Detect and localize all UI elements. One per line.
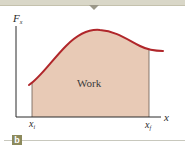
- y-axis-label: Fx: [13, 13, 22, 25]
- lower-bound-label: xi: [29, 119, 35, 130]
- upper-bound-label: xf: [145, 120, 151, 131]
- bottom-divider: [4, 140, 185, 141]
- panel-label-badge: b: [12, 135, 22, 145]
- work-area: [32, 30, 149, 117]
- x-axis-label: x: [164, 112, 169, 123]
- area-label: Work: [77, 78, 101, 89]
